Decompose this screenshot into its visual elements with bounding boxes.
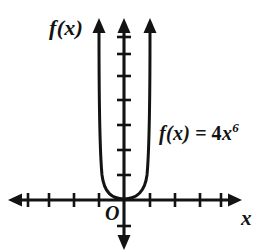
y-axis-down-arrowhead (118, 235, 131, 250)
x-axis-left-arrowhead (8, 194, 22, 207)
function-graph-figure: f(x) O x f(x) = 4x6 (0, 0, 263, 252)
curve-left-branch-arrowhead (93, 18, 106, 33)
equation-coefficient: 4 (212, 122, 222, 144)
equation-function-part: f(x) (159, 122, 190, 144)
equation-exponent: 6 (232, 120, 239, 135)
x-axis-right-arrowhead (228, 194, 242, 207)
y-axis-up-arrowhead (118, 18, 131, 33)
y-axis-label: f(x) (49, 17, 83, 39)
x-axis-label: x (241, 208, 252, 229)
function-equation-label: f(x) = 4x6 (159, 121, 239, 143)
equation-variable: x (222, 122, 232, 144)
curve-right-branch-arrowhead (144, 18, 157, 33)
equation-equals-sign: = (190, 122, 211, 144)
origin-label: O (105, 203, 120, 223)
